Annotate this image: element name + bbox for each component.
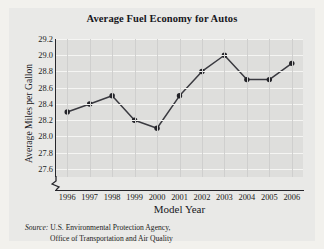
gridline-vertical (90, 39, 91, 177)
plot-area (56, 39, 303, 177)
x-tick-label: 2000 (149, 193, 166, 202)
gridline-vertical (180, 39, 181, 177)
x-axis-line (55, 190, 304, 191)
y-axis-title: Average Miles per Gallon (23, 39, 34, 189)
gridline-vertical (292, 39, 293, 177)
source-line-1: Source: U.S. Environmental Protection Ag… (25, 223, 173, 234)
gridline-vertical (247, 39, 248, 177)
x-tick-label: 2003 (216, 193, 233, 202)
gridline-vertical (224, 39, 225, 177)
x-tick-label: 1997 (81, 193, 98, 202)
source-label: Source: (25, 223, 48, 232)
gridline-vertical (157, 39, 158, 177)
x-tick-label: 2002 (194, 193, 211, 202)
source-agency: U.S. Environmental Protection Agency, (50, 223, 170, 232)
chart-figure: Average Fuel Economy for Autos 29.229.02… (9, 8, 315, 241)
x-axis-title: Model Year (56, 203, 303, 215)
gridline-vertical (112, 39, 113, 177)
x-tick-label: 2006 (283, 193, 300, 202)
x-tick-label: 2004 (238, 193, 255, 202)
gridline-vertical (269, 39, 270, 177)
chart-title: Average Fuel Economy for Autos (9, 13, 315, 24)
y-axis-line (55, 39, 56, 177)
source-line-2: Office of Transportation and Air Quality (25, 234, 173, 245)
x-tick-label: 2001 (171, 193, 188, 202)
source-note: Source: U.S. Environmental Protection Ag… (25, 223, 173, 245)
x-tick-label: 1998 (104, 193, 121, 202)
x-tick-label: 2005 (261, 193, 278, 202)
gridline-vertical (202, 39, 203, 177)
x-tick-label: 1999 (126, 193, 143, 202)
gridline-vertical (67, 39, 68, 177)
gridline-vertical (135, 39, 136, 177)
x-tick-label: 1996 (59, 193, 76, 202)
